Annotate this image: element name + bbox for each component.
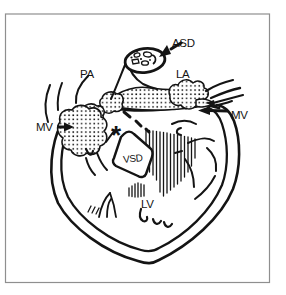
asterisk-marker: * <box>111 120 122 150</box>
diagram-canvas: ASD PA LA MV MV * VSD LV <box>0 0 286 295</box>
pa-label: PA <box>80 68 95 80</box>
mv-left-label: MV <box>36 121 53 133</box>
la-label: LA <box>176 68 190 80</box>
vsd-label: VSD <box>123 152 144 165</box>
lv-label: LV <box>141 198 154 210</box>
heart-diagram-figure: ASD PA LA MV MV * VSD LV <box>0 0 286 295</box>
asd-label: ASD <box>172 37 195 49</box>
mv-right-label: MV <box>231 109 248 121</box>
